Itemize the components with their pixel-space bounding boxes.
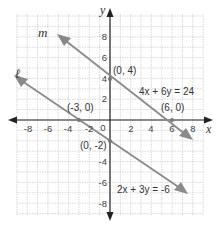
y-tick: 4 <box>102 74 107 84</box>
x-tick: 6 <box>169 124 174 134</box>
line-l-name: ℓ <box>15 67 20 80</box>
line-m-name: m <box>38 26 47 39</box>
x-axis-label: x <box>206 123 211 135</box>
x-axis-left-arrow-icon <box>8 117 17 124</box>
line-l-arrow-down-icon <box>174 182 188 194</box>
point-label-0-neg2: (0, -2) <box>80 141 107 151</box>
origin-label: 0 <box>100 123 105 133</box>
y-tick: 6 <box>102 53 107 63</box>
x-tick: 4 <box>148 124 153 134</box>
y-tick: 2 <box>102 94 107 104</box>
x-tick: 8 <box>190 124 195 134</box>
coordinate-plane <box>0 0 223 227</box>
equation-m: 4x + 6y = 24 <box>139 87 194 97</box>
point-label-0-4: (0, 4) <box>113 66 136 76</box>
y-tick: 8 <box>102 32 107 42</box>
y-tick: -6 <box>99 178 107 188</box>
point-label-6-0: (6, 0) <box>161 103 184 113</box>
x-tick: -4 <box>64 124 72 134</box>
x-tick: -8 <box>24 124 32 134</box>
y-tick: -4 <box>99 157 107 167</box>
y-tick: -8 <box>99 199 107 209</box>
x-tick: 2 <box>128 124 133 134</box>
equation-l: 2x + 3y = -6 <box>117 185 170 195</box>
y-axis-up-arrow-icon <box>107 8 114 17</box>
y-axis-down-arrow-icon <box>107 212 114 221</box>
x-tick: -2 <box>85 124 93 134</box>
point-label-neg3-0: (-3, 0) <box>67 103 94 113</box>
y-axis-label: y <box>100 4 105 16</box>
x-tick: -6 <box>44 124 52 134</box>
